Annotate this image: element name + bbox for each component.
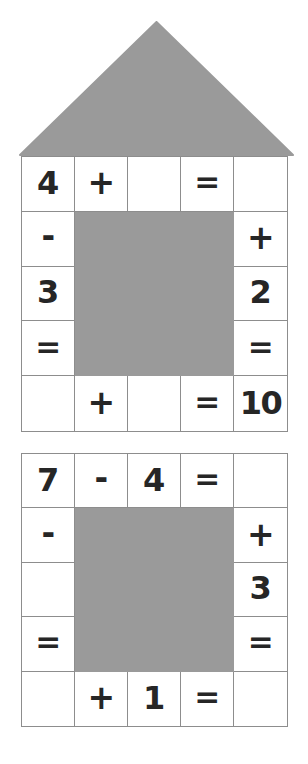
cell-2-4-0[interactable] xyxy=(22,672,75,726)
cell-1-4-2[interactable] xyxy=(128,376,181,431)
cell-2-3-4[interactable]: = xyxy=(234,617,287,671)
cell-1-4-3[interactable]: = xyxy=(181,376,234,431)
puzzle-grid-2: 7 - 4 = - + 3 = = + 1 = xyxy=(21,453,288,727)
grid-2: 7 - 4 = - + 3 = = + 1 = xyxy=(21,453,288,727)
cell-value: + xyxy=(87,386,114,419)
cell-1-0-2[interactable] xyxy=(128,157,181,212)
cell-2-1-0[interactable]: - xyxy=(22,508,75,562)
cell-value: + xyxy=(87,681,114,714)
cell-1-0-0[interactable]: 4 xyxy=(22,157,75,212)
cell-value: + xyxy=(247,221,274,254)
cell-value: 7 xyxy=(37,464,59,496)
cell-1-1-0[interactable]: - xyxy=(22,212,75,267)
cell-1-3-0[interactable]: = xyxy=(22,321,75,376)
grid-1: 4 + = - + 3 2 = = + = 10 xyxy=(21,156,288,432)
cell-2-1-4[interactable]: + xyxy=(234,508,287,562)
cell-2-4-1[interactable]: + xyxy=(75,672,128,726)
roof-triangle xyxy=(20,22,293,155)
cell-value: 3 xyxy=(37,276,59,308)
cell-value: = xyxy=(194,166,219,197)
cell-value: - xyxy=(94,461,107,494)
cell-1-4-1[interactable]: + xyxy=(75,376,128,431)
cell-1-1-4[interactable]: + xyxy=(234,212,287,267)
cell-value: = xyxy=(194,463,219,494)
cell-1-0-3[interactable]: = xyxy=(181,157,234,212)
cell-1-4-4[interactable]: 10 xyxy=(234,376,287,431)
cell-value: = xyxy=(35,626,60,657)
cell-2-0-0[interactable]: 7 xyxy=(22,454,75,508)
cell-2-3-0[interactable]: = xyxy=(22,617,75,671)
gray-block-1 xyxy=(75,212,234,376)
cell-1-0-1[interactable]: + xyxy=(75,157,128,212)
cell-2-0-3[interactable]: = xyxy=(181,454,234,508)
cell-2-4-4[interactable] xyxy=(234,672,287,726)
cell-value: + xyxy=(87,166,114,199)
puzzle-grid-1: 4 + = - + 3 2 = = + = 10 xyxy=(21,156,288,432)
worksheet: 4 + = - + 3 2 = = + = 10 xyxy=(0,0,308,764)
gray-block-2 xyxy=(75,508,234,671)
cell-value: 4 xyxy=(143,464,165,496)
cell-value: 10 xyxy=(240,387,282,419)
cell-value: + xyxy=(247,518,274,551)
cell-2-4-2[interactable]: 1 xyxy=(128,672,181,726)
cell-value: - xyxy=(41,516,54,549)
cell-value: = xyxy=(194,681,219,712)
cell-value: = xyxy=(194,386,219,417)
cell-value: = xyxy=(35,331,60,362)
cell-value: 4 xyxy=(37,167,59,199)
cell-1-4-0[interactable] xyxy=(22,376,75,431)
cell-2-2-0[interactable] xyxy=(22,563,75,617)
cell-value: - xyxy=(41,219,54,252)
cell-value: 2 xyxy=(250,276,272,308)
cell-value: 1 xyxy=(143,682,165,714)
cell-1-3-4[interactable]: = xyxy=(234,321,287,376)
cell-2-4-3[interactable]: = xyxy=(181,672,234,726)
cell-2-0-1[interactable]: - xyxy=(75,454,128,508)
cell-1-2-0[interactable]: 3 xyxy=(22,267,75,322)
cell-value: = xyxy=(248,331,273,362)
cell-2-0-2[interactable]: 4 xyxy=(128,454,181,508)
house-roof xyxy=(19,21,294,156)
cell-2-0-4[interactable] xyxy=(234,454,287,508)
cell-1-2-4[interactable]: 2 xyxy=(234,267,287,322)
cell-1-0-4[interactable] xyxy=(234,157,287,212)
cell-value: = xyxy=(248,626,273,657)
cell-value: 3 xyxy=(250,572,272,604)
cell-2-2-4[interactable]: 3 xyxy=(234,563,287,617)
